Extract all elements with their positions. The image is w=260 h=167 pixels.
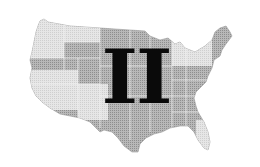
region-great-lakes: [172, 40, 212, 66]
region-northwest: [30, 18, 64, 58]
region-southwest: [30, 70, 78, 110]
region-florida: [196, 120, 212, 154]
region-montana: [64, 22, 100, 42]
roman-numeral-label: II: [100, 44, 172, 111]
